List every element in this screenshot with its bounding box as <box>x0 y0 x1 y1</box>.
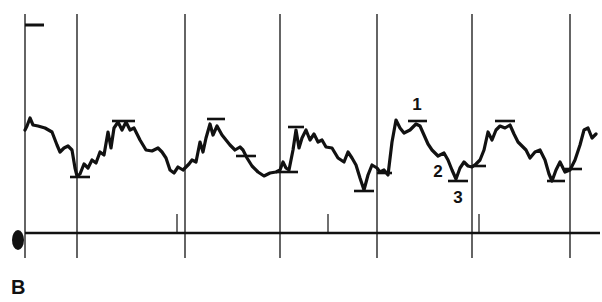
annotation-labels: 123 <box>412 95 462 207</box>
annotation-3: 3 <box>453 188 462 207</box>
annotation-1: 1 <box>412 95 421 114</box>
waveform-trace <box>25 118 596 190</box>
waveform-figure: 123 <box>0 0 602 302</box>
trace-line <box>25 118 596 190</box>
annotation-2: 2 <box>433 162 442 181</box>
origin-dot-icon <box>12 230 24 250</box>
panel-label: B <box>11 276 25 299</box>
level-markers <box>70 119 582 191</box>
baseline-axis <box>25 214 600 233</box>
